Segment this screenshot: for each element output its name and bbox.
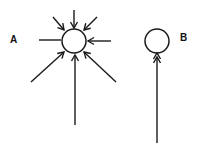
label-a: A <box>10 35 17 45</box>
circle-b <box>145 29 169 53</box>
diagram-canvas: A B <box>0 0 197 150</box>
arrow-bottom-right <box>84 52 116 82</box>
arrow-top-left <box>53 17 64 30</box>
circle-a <box>62 29 86 53</box>
arrow-bottom-left <box>31 52 64 82</box>
force-diagram <box>0 0 197 150</box>
arrow-bottom <box>154 53 161 143</box>
arrow-bottom <box>72 55 79 125</box>
label-b: B <box>180 33 187 43</box>
arrow-top-right <box>84 17 97 30</box>
arrow-right <box>88 38 111 45</box>
panel-a <box>31 10 116 125</box>
panel-b <box>145 29 169 143</box>
arrow-top <box>71 10 78 28</box>
